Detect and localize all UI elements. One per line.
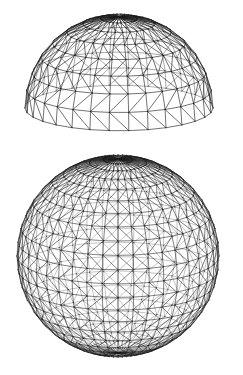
mesh-edge — [68, 35, 71, 38]
mesh-edge — [125, 323, 127, 333]
mesh-edge — [152, 55, 163, 57]
mesh-edge — [177, 89, 181, 107]
mesh-edge — [91, 94, 110, 111]
mesh-edge — [47, 223, 58, 234]
mesh-edge — [118, 255, 134, 269]
mesh-edge — [162, 307, 172, 317]
mesh-edge — [44, 85, 48, 103]
mesh-edge — [129, 69, 148, 85]
mesh-edge — [49, 85, 61, 88]
mesh-edge — [74, 193, 76, 205]
mesh-edge — [133, 240, 146, 255]
mesh-edge — [131, 285, 144, 286]
mesh-edge — [140, 59, 144, 76]
figure-page — [0, 0, 243, 375]
mesh-edge — [61, 294, 73, 305]
mesh-edge — [200, 227, 204, 241]
mesh-edge — [56, 125, 72, 128]
mesh-edge — [164, 281, 177, 292]
mesh-edge — [171, 53, 172, 71]
mesh-edge — [52, 183, 53, 186]
mesh-edge — [148, 174, 152, 175]
mesh-edge — [187, 302, 193, 311]
mesh-edge — [37, 199, 45, 211]
mesh-edge — [147, 111, 166, 127]
mesh-edge — [47, 276, 48, 290]
mesh-edge — [153, 288, 157, 301]
mesh-edge — [111, 76, 128, 94]
mesh-edge — [208, 269, 213, 279]
mesh-edge — [72, 69, 91, 88]
mesh-edge — [76, 168, 77, 170]
mesh-edge — [162, 250, 175, 252]
mesh-edge — [72, 128, 90, 130]
mesh-edge — [148, 203, 149, 216]
mesh-edge — [163, 53, 172, 56]
mesh-edge — [58, 220, 68, 222]
mesh-edge — [76, 74, 80, 92]
mesh-edge — [79, 197, 88, 198]
mesh-edge — [172, 207, 178, 220]
mesh-edge — [148, 313, 157, 314]
mesh-edge — [47, 262, 48, 276]
mesh-edge — [95, 75, 110, 94]
mesh-edge — [135, 189, 139, 200]
mesh-edge — [95, 75, 111, 76]
mesh-edge — [86, 57, 99, 58]
mesh-edge — [175, 234, 183, 251]
mesh-edge — [157, 274, 160, 288]
mesh-edge — [127, 75, 143, 76]
mesh-edge — [88, 176, 93, 177]
mesh-edge — [158, 55, 163, 73]
mesh-edge — [71, 37, 76, 39]
mesh-edge — [93, 312, 97, 324]
mesh-edge — [166, 88, 182, 91]
mesh-edge — [118, 227, 132, 241]
mesh-edge — [205, 220, 208, 224]
mesh-edge — [90, 257, 103, 272]
mesh-edge — [148, 238, 160, 254]
mesh-edge — [92, 331, 105, 332]
mesh-edge — [49, 217, 58, 220]
mesh-edge — [92, 321, 104, 330]
mesh-edge — [160, 238, 162, 252]
mesh-edge — [73, 267, 88, 269]
mesh-edge — [76, 53, 93, 55]
mesh-edge — [192, 227, 200, 230]
mesh-edge — [66, 179, 69, 181]
mesh-edge — [177, 85, 189, 88]
mesh-edge — [128, 52, 129, 68]
mesh-edge — [127, 59, 139, 76]
mesh-edge — [130, 32, 135, 44]
mesh-edge — [105, 285, 106, 298]
mesh-edge — [59, 183, 74, 191]
mesh-edge — [160, 260, 162, 274]
mesh-edge — [101, 31, 108, 32]
mesh-edge — [130, 212, 142, 213]
mesh-edge — [204, 271, 210, 275]
mesh-edge — [101, 323, 109, 324]
mesh-edge — [92, 180, 105, 181]
mesh-edge — [79, 185, 86, 187]
mesh-edge — [165, 110, 182, 125]
mesh-edge — [36, 226, 37, 240]
mesh-edge — [148, 252, 162, 254]
mesh-edge — [59, 292, 61, 305]
mesh-edge — [153, 301, 163, 303]
mesh-edge — [114, 341, 118, 348]
mesh-edge — [106, 299, 118, 311]
mesh-edge — [173, 50, 180, 53]
mesh-edge — [71, 196, 79, 198]
mesh-edge — [64, 290, 68, 305]
mesh-edge — [33, 95, 43, 99]
mesh-edge — [165, 110, 166, 128]
mesh-edge — [74, 258, 88, 260]
mesh-edge — [160, 307, 162, 319]
mesh-edge — [87, 282, 103, 297]
mesh-edge — [129, 130, 148, 131]
mesh-edge — [141, 166, 143, 167]
mesh-edge — [129, 112, 148, 129]
mesh-edge — [76, 272, 89, 274]
mesh-edge — [76, 258, 88, 274]
mesh-edge — [177, 279, 188, 290]
